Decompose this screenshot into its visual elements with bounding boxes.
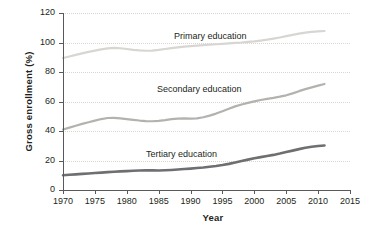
x-axis-title: Year [63,212,363,223]
y-tick-mark-60 [59,102,63,103]
x-axis-line [63,190,351,191]
y-tick-mark-120 [59,13,63,14]
series-label-primary: Primary education [174,31,247,41]
y-tick-label-100: 100 [29,38,55,47]
y-tick-mark-80 [59,72,63,73]
y-tick-label-120: 120 [29,8,55,17]
y-tick-label-60: 60 [29,97,55,106]
x-tick-mark-1990 [191,190,192,194]
x-tick-label-2015: 2015 [330,196,367,206]
x-tick-mark-1975 [95,190,96,194]
series-label-tertiary: Tertiary education [146,149,217,159]
x-tick-mark-2000 [254,190,255,194]
x-tick-mark-2005 [286,190,287,194]
y-tick-label-80: 80 [29,67,55,76]
x-tick-mark-1970 [63,190,64,194]
y-tick-mark-100 [59,43,63,44]
series-label-secondary: Secondary education [157,84,242,94]
x-tick-mark-1985 [159,190,160,194]
y-tick-label-20: 20 [29,156,55,165]
y-axis-line [63,13,64,191]
y-tick-mark-40 [59,131,63,132]
x-tick-mark-2010 [318,190,319,194]
y-tick-label-0: 0 [29,185,55,194]
enrollment-line-chart: Gross enrollment (%) 020406080100120 197… [0,0,367,237]
x-tick-mark-1995 [222,190,223,194]
y-tick-label-40: 40 [29,126,55,135]
x-tick-mark-1980 [127,190,128,194]
x-tick-mark-2015 [350,190,351,194]
y-tick-mark-20 [59,161,63,162]
